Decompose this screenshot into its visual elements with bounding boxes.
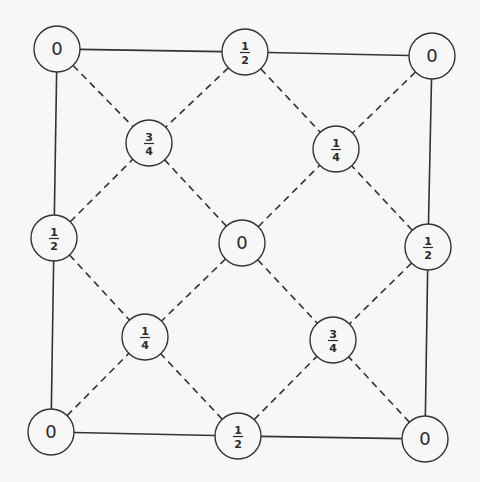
dashed-edge-n-ml-n-ll bbox=[70, 255, 130, 320]
dashed-edge-n-mr-n-lr bbox=[349, 263, 411, 324]
fraction-numerator: 1 bbox=[141, 325, 149, 338]
fraction-numerator: 1 bbox=[424, 235, 432, 248]
fraction-denominator: 2 bbox=[50, 240, 58, 253]
solid-edge-n-tc-n-tr bbox=[268, 52, 409, 55]
dashed-edge-n-tc-n-ul bbox=[166, 68, 229, 127]
node-value: 0 bbox=[419, 428, 430, 449]
fraction-denominator: 2 bbox=[234, 438, 242, 451]
dashed-edge-n-c-n-ul bbox=[165, 160, 227, 226]
dashed-edge-n-bl-n-ll bbox=[67, 353, 129, 415]
fraction-denominator: 4 bbox=[329, 342, 337, 355]
fraction-denominator: 4 bbox=[145, 145, 153, 158]
node-n-bl: 0 bbox=[28, 409, 74, 455]
node-n-mr: 12 bbox=[405, 224, 451, 270]
node-n-lr: 34 bbox=[310, 317, 356, 363]
node-value: 0 bbox=[236, 232, 247, 253]
graph-diagram: 012034141201214340120 bbox=[0, 0, 480, 482]
fraction-numerator: 1 bbox=[332, 137, 340, 150]
fraction-numerator: 3 bbox=[145, 131, 153, 144]
dashed-edge-n-c-n-lr bbox=[258, 260, 318, 323]
dashed-edge-n-tc-n-ur bbox=[261, 69, 321, 132]
solid-edge-n-tl-n-tc bbox=[80, 49, 222, 51]
solid-edge-n-tl-n-ml bbox=[54, 72, 56, 215]
node-n-c: 0 bbox=[219, 220, 265, 266]
dashed-edge-n-ml-n-ul bbox=[70, 159, 132, 221]
fraction-numerator: 1 bbox=[50, 226, 58, 239]
nodes-layer: 012034141201214340120 bbox=[28, 26, 455, 462]
node-value: 0 bbox=[51, 38, 62, 59]
dashed-edge-n-tr-n-ur bbox=[353, 72, 416, 133]
fraction-numerator: 3 bbox=[329, 328, 337, 341]
node-n-tl: 0 bbox=[34, 26, 80, 72]
fraction-numerator: 1 bbox=[234, 424, 242, 437]
fraction-numerator: 1 bbox=[241, 40, 249, 53]
solid-edge-n-bl-n-bc bbox=[74, 432, 215, 435]
node-n-ul: 34 bbox=[126, 120, 172, 166]
node-n-ll: 14 bbox=[122, 314, 168, 360]
dashed-edge-n-c-n-ur bbox=[258, 165, 319, 226]
dashed-edge-n-c-n-ll bbox=[162, 259, 226, 321]
node-n-bc: 12 bbox=[215, 413, 261, 459]
dashed-edge-n-bc-n-ll bbox=[161, 354, 223, 419]
node-value: 0 bbox=[45, 421, 56, 442]
fraction-denominator: 4 bbox=[332, 151, 340, 164]
node-n-tc: 12 bbox=[222, 29, 268, 75]
solid-edge-n-bc-n-br bbox=[261, 436, 402, 438]
fraction-denominator: 2 bbox=[424, 249, 432, 262]
solid-edge-n-ml-n-bl bbox=[51, 261, 53, 409]
solid-edge-n-mr-n-br bbox=[425, 270, 427, 416]
dashed-edge-n-bc-n-lr bbox=[254, 356, 317, 419]
fraction-denominator: 2 bbox=[241, 54, 249, 67]
node-n-ml: 12 bbox=[31, 215, 77, 261]
dashed-edge-n-tl-n-ul bbox=[73, 65, 133, 126]
node-n-tr: 0 bbox=[409, 33, 455, 79]
dashed-edge-n-br-n-lr bbox=[349, 357, 410, 422]
node-n-br: 0 bbox=[402, 416, 448, 462]
fraction-denominator: 4 bbox=[141, 339, 149, 352]
solid-edge-n-tr-n-mr bbox=[428, 79, 431, 224]
node-n-ur: 14 bbox=[313, 126, 359, 172]
node-value: 0 bbox=[426, 45, 437, 66]
dashed-edge-n-mr-n-ur bbox=[352, 166, 413, 230]
